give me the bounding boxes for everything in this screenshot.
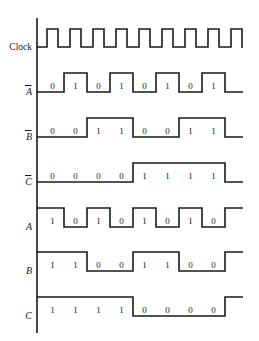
row-labels: ClockABCABC xyxy=(9,42,33,321)
bit-c-5: 0 xyxy=(165,305,170,315)
bit-a-3: 0 xyxy=(119,216,124,226)
bit-b-bar-4: 0 xyxy=(142,126,147,136)
bit-a-2: 1 xyxy=(96,216,101,226)
bit-a-4: 1 xyxy=(142,216,147,226)
bit-c-bar-1: 0 xyxy=(73,171,78,181)
bit-c-bar-5: 1 xyxy=(165,171,170,181)
bit-a-0: 1 xyxy=(50,216,55,226)
bit-b-3: 0 xyxy=(119,260,124,270)
bit-b-0: 1 xyxy=(50,260,55,270)
bit-c-1: 1 xyxy=(73,305,78,315)
bit-b-1: 1 xyxy=(73,260,78,270)
bit-c-bar-6: 1 xyxy=(188,171,193,181)
bit-c-bar-3: 0 xyxy=(119,171,124,181)
bit-c-2: 1 xyxy=(96,305,101,315)
bit-c-bar-4: 1 xyxy=(142,171,147,181)
bit-b-bar-7: 1 xyxy=(211,126,216,136)
bit-b-bar-5: 0 xyxy=(165,126,170,136)
row-label-b-bar: B xyxy=(26,131,32,142)
bit-b-7: 0 xyxy=(211,260,216,270)
bit-b-5: 1 xyxy=(165,260,170,270)
bit-a-1: 0 xyxy=(73,216,78,226)
bit-a-7: 0 xyxy=(211,216,216,226)
bit-b-4: 1 xyxy=(142,260,147,270)
bit-a-bar-5: 1 xyxy=(165,81,170,91)
bit-value-labels: 0101010100110011000011111010101011001100… xyxy=(50,81,216,315)
bit-c-3: 1 xyxy=(119,305,124,315)
bit-a-6: 1 xyxy=(188,216,193,226)
timing-diagram: ClockABCABC 0101010100110011000011111010… xyxy=(0,0,259,341)
bit-a-bar-4: 0 xyxy=(142,81,147,91)
bit-b-bar-2: 1 xyxy=(96,126,101,136)
waveform-clock xyxy=(37,29,243,47)
row-label-a-bar: A xyxy=(25,86,33,97)
bit-a-bar-6: 0 xyxy=(188,81,193,91)
row-label-a: A xyxy=(25,221,33,232)
bit-b-6: 0 xyxy=(188,260,193,270)
bit-c-4: 0 xyxy=(142,305,147,315)
bit-b-2: 0 xyxy=(96,260,101,270)
bit-c-bar-0: 0 xyxy=(50,171,55,181)
bit-c-6: 0 xyxy=(188,305,193,315)
bit-a-bar-0: 0 xyxy=(50,81,55,91)
bit-b-bar-1: 0 xyxy=(73,126,78,136)
timing-diagram-canvas: ClockABCABC 0101010100110011000011111010… xyxy=(0,0,259,341)
bit-b-bar-0: 0 xyxy=(50,126,55,136)
bit-a-bar-3: 1 xyxy=(119,81,124,91)
bit-c-0: 1 xyxy=(50,305,55,315)
row-label-c-bar: C xyxy=(25,176,32,187)
bit-a-5: 0 xyxy=(165,216,170,226)
bit-b-bar-3: 1 xyxy=(119,126,124,136)
bit-c-7: 0 xyxy=(211,305,216,315)
bit-c-bar-2: 0 xyxy=(96,171,101,181)
bit-a-bar-2: 0 xyxy=(96,81,101,91)
bit-c-bar-7: 1 xyxy=(211,171,216,181)
row-label-c: C xyxy=(25,310,32,321)
row-label-clock: Clock xyxy=(9,42,32,52)
bit-a-bar-1: 1 xyxy=(73,81,78,91)
row-label-b: B xyxy=(26,265,32,276)
bit-a-bar-7: 1 xyxy=(211,81,216,91)
bit-b-bar-6: 1 xyxy=(188,126,193,136)
